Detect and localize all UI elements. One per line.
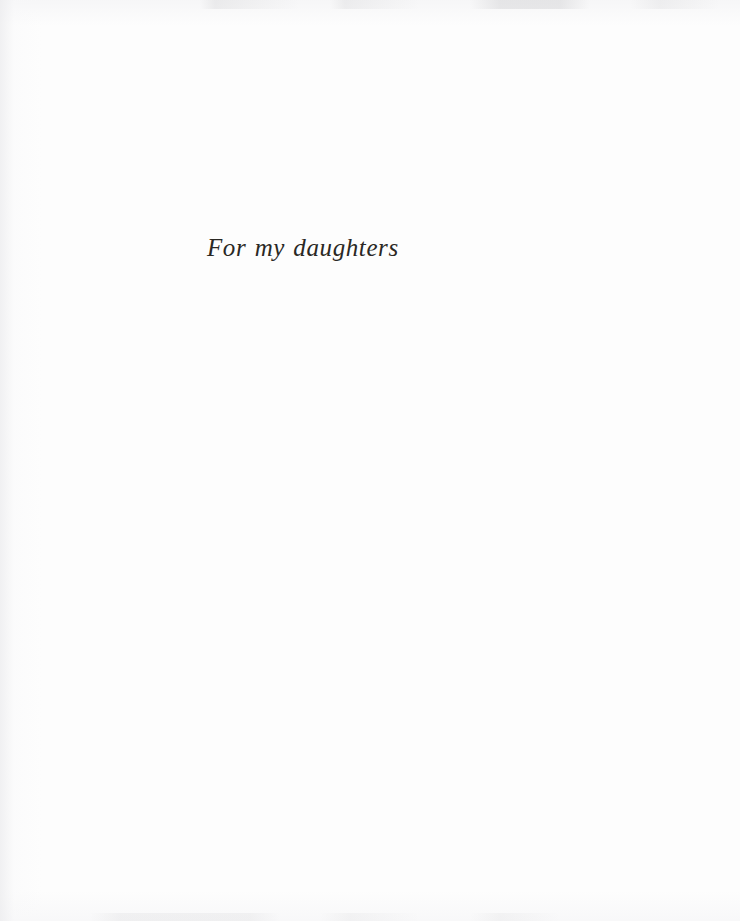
scan-artifact-bottom-edge [0, 913, 740, 921]
dedication-page: For my daughters [0, 0, 740, 921]
scan-artifact-top-edge [0, 0, 740, 9]
dedication-text: For my daughters [207, 233, 399, 263]
